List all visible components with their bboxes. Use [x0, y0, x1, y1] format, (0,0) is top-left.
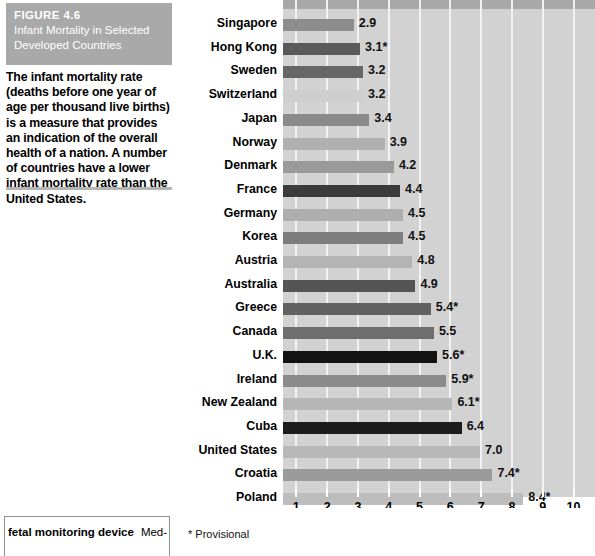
bar — [283, 19, 354, 31]
bar-value-label: 3.9 — [390, 135, 407, 149]
bar-value-label: 5.6* — [442, 348, 464, 362]
row-label-canada: Canada — [233, 324, 277, 338]
chart-rows: Singapore2.9Hong Kong3.1*Sweden3.2Switze… — [283, 0, 595, 497]
tick-mark — [511, 489, 513, 497]
bar-value-label: 6.4 — [467, 419, 484, 433]
tick-mark — [573, 489, 575, 497]
tick-mark — [326, 489, 328, 497]
row-label-hong-kong: Hong Kong — [211, 40, 277, 54]
chart-row: Switzerland3.2 — [283, 84, 595, 108]
bar-value-label: 3.1* — [365, 40, 387, 54]
tick-mark — [419, 489, 421, 497]
chart-row: Denmark4.2 — [283, 155, 595, 179]
bar — [283, 446, 480, 458]
row-label-germany: Germany — [224, 206, 277, 220]
bar — [283, 375, 446, 387]
chart-row: Hong Kong3.1* — [283, 37, 595, 61]
bar-value-label: 3.2 — [368, 63, 385, 77]
bar — [283, 303, 431, 315]
chart-row: Greece5.4* — [283, 297, 595, 321]
row-label-greece: Greece — [235, 300, 277, 314]
chart-row: Croatia7.4* — [283, 463, 595, 487]
bar-value-label: 4.5 — [408, 206, 425, 220]
row-label-u-k-: U.K. — [252, 348, 277, 362]
bar — [283, 232, 403, 244]
bar — [283, 327, 434, 339]
bar — [283, 469, 492, 481]
plot-area: Singapore2.9Hong Kong3.1*Sweden3.2Switze… — [283, 0, 595, 497]
bar — [283, 422, 462, 434]
chart-row: U.K.5.6* — [283, 345, 595, 369]
figure-number: FIGURE 4.6 — [14, 8, 164, 22]
chart-row: Japan3.4 — [283, 108, 595, 132]
row-label-japan: Japan — [241, 111, 277, 125]
chart-row: United States7.0 — [283, 440, 595, 464]
chart-row: Norway3.9 — [283, 132, 595, 156]
bar — [283, 185, 400, 197]
chart-row: Cuba6.4 — [283, 416, 595, 440]
bar-value-label: 7.0 — [485, 443, 502, 457]
glossary-term: fetal monitoring deviceMed- — [8, 526, 167, 538]
chart-row: Ireland5.9* — [283, 369, 595, 393]
bar — [283, 256, 412, 268]
bar — [283, 161, 394, 173]
bar — [283, 43, 360, 55]
chart-row: New Zealand6.1* — [283, 392, 595, 416]
tick-mark — [480, 489, 482, 497]
chart-row: Germany4.5 — [283, 203, 595, 227]
chart-row: Singapore2.9 — [283, 13, 595, 37]
bar — [283, 280, 415, 292]
bar-value-label: 6.1* — [457, 395, 479, 409]
bar — [283, 66, 363, 78]
glossary-continuation: Med- — [141, 526, 167, 538]
chart-footnote: * Provisional — [188, 528, 249, 540]
bar-value-label: 2.9 — [359, 16, 376, 30]
bar-value-label: 3.2 — [368, 87, 385, 101]
row-label-korea: Korea — [242, 229, 277, 243]
tick-mark — [295, 489, 297, 497]
bar-value-label: 4.2 — [399, 158, 416, 172]
bar-value-label: 5.9* — [451, 372, 473, 386]
row-label-poland: Poland — [236, 490, 277, 504]
bar-value-label: 7.4* — [497, 466, 519, 480]
tick-mark — [542, 489, 544, 497]
figure-title: Infant Mortality in Selected Developed C… — [14, 23, 164, 53]
page-footer: fetal monitoring deviceMed- * Provisiona… — [0, 508, 595, 556]
chart-row: Korea4.5 — [283, 226, 595, 250]
row-label-denmark: Denmark — [224, 158, 277, 172]
row-label-austria: Austria — [235, 253, 277, 267]
row-label-ireland: Ireland — [237, 372, 277, 386]
bar-chart: Singapore2.9Hong Kong3.1*Sweden3.2Switze… — [178, 0, 595, 508]
chart-row: Canada5.5 — [283, 321, 595, 345]
row-label-switzerland: Switzerland — [209, 87, 277, 101]
bar — [283, 90, 363, 102]
caption-column: FIGURE 4.6 Infant Mortality in Selected … — [0, 0, 178, 556]
bar-value-label: 3.4 — [374, 111, 391, 125]
bar — [283, 209, 403, 221]
row-label-australia: Australia — [224, 277, 277, 291]
glossary-term-text: fetal monitoring device — [8, 526, 134, 538]
row-label-sweden: Sweden — [231, 63, 277, 77]
bar — [283, 138, 385, 150]
bar-value-label: 4.4 — [405, 182, 422, 196]
tick-mark — [449, 489, 451, 497]
bar-value-label: 4.8 — [417, 253, 434, 267]
row-label-new-zealand: New Zealand — [202, 395, 277, 409]
bar — [283, 351, 437, 363]
row-label-croatia: Croatia — [235, 466, 277, 480]
bar-value-label: 5.5 — [439, 324, 456, 338]
row-label-cuba: Cuba — [246, 419, 277, 433]
bar — [283, 114, 369, 126]
tick-mark — [357, 489, 359, 497]
row-label-singapore: Singapore — [217, 16, 277, 30]
bar-value-label: 5.4* — [436, 300, 458, 314]
bar-value-label: 4.9 — [420, 277, 437, 291]
caption-divider — [6, 187, 172, 190]
figure-header-box: FIGURE 4.6 Infant Mortality in Selected … — [6, 3, 172, 65]
row-label-united-states: United States — [198, 443, 277, 457]
chart-row: Sweden3.2 — [283, 60, 595, 84]
bar — [283, 398, 452, 410]
chart-row: Australia4.9 — [283, 274, 595, 298]
bar-value-label: 4.5 — [408, 229, 425, 243]
chart-row: Austria4.8 — [283, 250, 595, 274]
